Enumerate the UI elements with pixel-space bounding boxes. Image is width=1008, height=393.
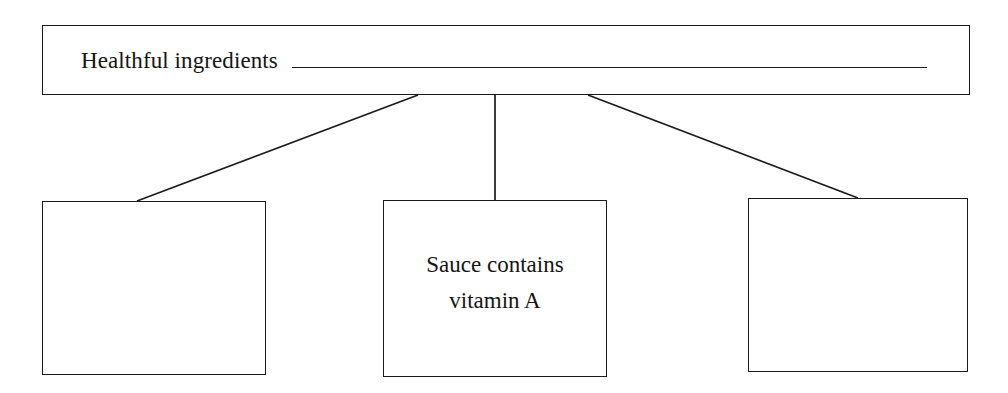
- detail-box-2-line-2: vitamin A: [392, 283, 598, 319]
- header-row: Healthful ingredients: [81, 26, 927, 94]
- detail-box-2[interactable]: Sauce contains vitamin A: [383, 200, 607, 377]
- header-blank-rule[interactable]: [292, 67, 927, 68]
- detail-box-1[interactable]: [42, 201, 266, 375]
- detail-box-2-line-1: Sauce contains: [392, 247, 598, 283]
- connector-header-to-detail-3: [588, 95, 858, 198]
- header-box: Healthful ingredients: [42, 25, 970, 95]
- header-label: Healthful ingredients: [81, 49, 278, 72]
- connector-header-to-detail-1: [137, 95, 418, 201]
- detail-box-3[interactable]: [748, 198, 968, 372]
- detail-box-2-text: Sauce contains vitamin A: [392, 247, 598, 319]
- diagram-canvas: Healthful ingredients Sauce contains vit…: [0, 0, 1008, 393]
